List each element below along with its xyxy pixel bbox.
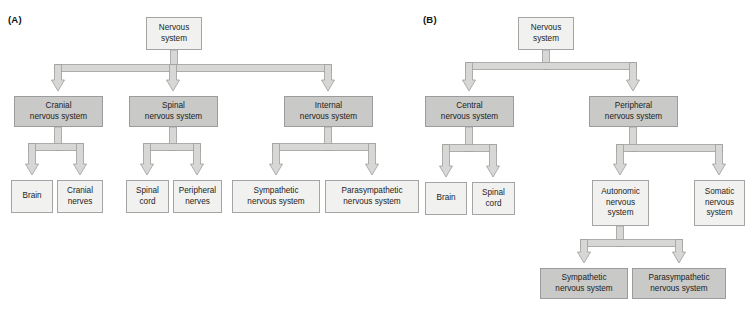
node-internal-nervous-system: Internal nervous system [284, 96, 373, 127]
node-label: Brain [22, 191, 41, 202]
connector-arrow-panel-b-2-1 [713, 145, 726, 176]
connector-bus-panel-b-3 [581, 240, 683, 247]
node-parasympathetic-nervous-system: Parasympathetic nervous system [325, 180, 419, 213]
connector-stem-panel-a-2 [170, 127, 177, 151]
node-sympathetic-nervous-system: Sympathetic nervous system [232, 180, 320, 213]
connector-stem-panel-a-3 [325, 127, 332, 151]
connector-arrow-panel-a-0-2 [322, 65, 335, 92]
node-spinal-cord: Spinal cord [472, 182, 515, 215]
node-spinal-nervous-system: Spinal nervous system [129, 96, 218, 127]
connector-bus-panel-b-2 [617, 145, 723, 152]
connector-arrow-panel-a-2-1 [191, 144, 204, 176]
node-nervous-system: Nervous system [146, 17, 202, 50]
connector-bus-panel-a-0 [55, 65, 332, 72]
connector-arrow-panel-b-2-0 [614, 145, 627, 176]
node-label: Peripheral nervous system [605, 101, 662, 123]
connector-arrow-panel-b-3-1 [673, 240, 686, 264]
node-central-nervous-system: Central nervous system [425, 96, 514, 127]
connector-stem-panel-b-2 [630, 127, 637, 152]
connector-layer [0, 0, 755, 309]
node-peripheral-nervous-system: Peripheral nervous system [589, 96, 678, 127]
connector-arrow-panel-a-3-1 [366, 144, 379, 176]
node-label: Peripheral nerves [179, 186, 216, 208]
connector-arrow-panel-b-0-1 [627, 63, 640, 92]
connector-arrow-panel-b-3-0 [578, 240, 591, 264]
node-label: Parasympathetic nervous system [649, 273, 710, 295]
connector-arrow-panel-a-2-0 [141, 144, 154, 176]
connector-bus-panel-a-2 [144, 144, 201, 151]
connector-arrow-panel-a-3-0 [270, 144, 283, 176]
connector-arrow-panel-b-1-1 [487, 145, 500, 178]
node-label: Cranial nerves [67, 186, 93, 208]
node-label: Internal nervous system [300, 101, 357, 123]
node-label: Parasympathetic nervous system [342, 186, 403, 208]
node-cranial-nervous-system: Cranial nervous system [14, 96, 103, 127]
node-label: Sympathetic nervous system [247, 186, 304, 208]
node-somatic-nervous-system: Somatic nervous system [694, 180, 745, 226]
connector-arrow-panel-a-1-0 [26, 144, 39, 176]
node-label: Nervous system [531, 23, 562, 45]
connector-stem-panel-b-1 [466, 127, 473, 152]
node-label: Spinal cord [482, 188, 505, 210]
node-label: Autonomic nervous system [601, 187, 640, 219]
node-brain: Brain [11, 180, 53, 213]
node-label: Cranial nervous system [30, 101, 87, 123]
connector-bus-panel-b-0 [466, 63, 637, 70]
node-sympathetic-nervous-system: Sympathetic nervous system [540, 268, 628, 299]
node-spinal-cord: Spinal cord [126, 180, 169, 213]
node-cranial-nerves: Cranial nerves [57, 180, 103, 213]
node-label: Somatic nervous system [705, 187, 735, 219]
connector-bus-panel-b-1 [443, 145, 497, 152]
panel-label-panel-b: (B) [423, 14, 437, 25]
node-label: Spinal cord [136, 186, 159, 208]
connector-stem-panel-b-0 [543, 50, 550, 70]
connector-stem-panel-a-1 [55, 127, 62, 151]
node-label: Nervous system [159, 23, 190, 45]
connector-bus-panel-a-3 [273, 144, 376, 151]
connector-arrow-panel-a-1-1 [74, 144, 87, 176]
panel-label-panel-a: (A) [8, 14, 22, 25]
connector-arrow-panel-b-1-0 [440, 145, 453, 178]
node-brain: Brain [425, 182, 467, 215]
connector-bus-panel-a-1 [29, 144, 84, 151]
nervous-system-hierarchy-figure: Nervous systemCranial nervous systemSpin… [0, 0, 755, 309]
node-nervous-system: Nervous system [518, 17, 574, 50]
node-label: Sympathetic nervous system [555, 273, 612, 295]
connector-arrow-panel-a-0-1 [167, 65, 180, 92]
node-label: Central nervous system [441, 101, 498, 123]
connector-arrow-panel-a-0-0 [52, 65, 65, 92]
node-autonomic-nervous-system: Autonomic nervous system [592, 180, 649, 226]
node-label: Spinal nervous system [145, 101, 202, 123]
node-peripheral-nerves: Peripheral nerves [173, 180, 222, 213]
node-parasympathetic-nervous-system: Parasympathetic nervous system [632, 268, 726, 299]
connector-stem-panel-a-0 [171, 50, 178, 72]
connector-stem-panel-b-3 [617, 226, 624, 247]
connector-arrow-panel-b-0-0 [463, 63, 476, 92]
node-label: Brain [436, 193, 455, 204]
